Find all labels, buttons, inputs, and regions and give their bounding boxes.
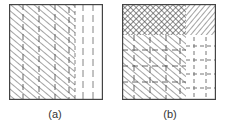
panel-a-caption: (a) [35, 108, 75, 120]
panel-b-caption: (b) [150, 108, 190, 120]
panel-b-diagram [122, 4, 216, 100]
panel-a-diagram [9, 4, 103, 100]
panel-a-hatch-figure [9, 4, 103, 100]
panel-b-hatch-figure [122, 4, 216, 100]
